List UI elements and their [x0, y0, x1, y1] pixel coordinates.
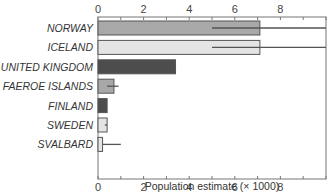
bar-row: FAEROE ISLANDS: [3, 79, 119, 93]
category-label: ICELAND: [47, 41, 93, 53]
category-label: FAEROE ISLANDS: [3, 80, 93, 92]
category-label: UNITED KINGDOM: [1, 61, 93, 73]
bottom-tick-label: 0: [95, 181, 101, 192]
bar: [98, 137, 103, 151]
category-label: NORWAY: [47, 22, 94, 34]
top-tick-label: 6: [232, 3, 238, 15]
category-label: SWEDEN: [47, 119, 94, 131]
bar-row: FINLAND: [48, 99, 107, 113]
top-tick-label: 8: [277, 3, 283, 15]
category-label: FINLAND: [48, 100, 93, 112]
bar-row: UNITED KINGDOM: [1, 60, 176, 74]
bar-chart: 0246802468Population estimate (× 1000)NO…: [0, 0, 328, 192]
top-tick-label: 0: [95, 3, 101, 15]
category-label: SVALBARD: [38, 138, 94, 150]
top-tick-label: 4: [186, 3, 192, 15]
bar-row: SVALBARD: [38, 137, 121, 151]
x-axis-label: Population estimate (× 1000): [145, 180, 280, 192]
bar: [98, 60, 176, 74]
bar-row: NORWAY: [47, 21, 326, 35]
bar-row: ICELAND: [47, 40, 326, 54]
bar: [98, 99, 107, 113]
top-tick-label: 2: [141, 3, 147, 15]
bar-row: SWEDEN: [47, 118, 107, 132]
